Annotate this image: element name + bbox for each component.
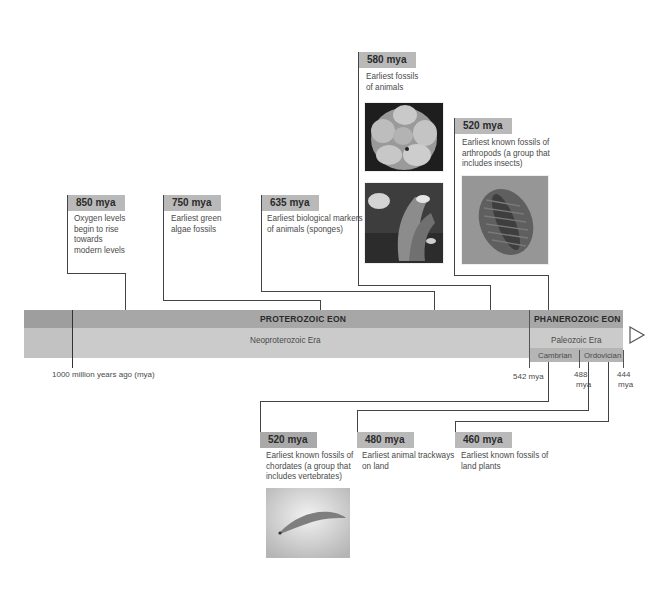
connector-480-drop	[357, 410, 358, 432]
connector-750-h	[163, 300, 321, 301]
connector-520c-v	[548, 362, 549, 402]
tick-444-mya	[623, 350, 624, 368]
connector-580	[358, 52, 359, 286]
event-description: Earliest biological markersof animals (s…	[267, 214, 363, 235]
tick-label-488: 488	[574, 370, 587, 379]
tick-label-444-unit: mya	[618, 380, 633, 389]
event-description: Earliest fossilsof animals	[366, 72, 418, 93]
event-date: 520 mya	[260, 432, 317, 448]
connector-520a-v	[548, 275, 549, 310]
tick-label-444: 444	[617, 370, 630, 379]
connector-850-h	[67, 273, 126, 274]
event-description: Earliest known fossils ofchordates (a gr…	[266, 451, 353, 483]
connector-520a-h	[454, 275, 549, 276]
connector-480-v	[588, 362, 589, 411]
connector-850-v	[125, 273, 126, 310]
event-description: Oxygen levelsbegin to risetowardsmodern …	[74, 214, 125, 256]
event-description: Earliest animal trackwayson land	[362, 451, 454, 472]
event-date: 480 mya	[357, 432, 414, 448]
event-description: Earliest known fossils ofland plants	[461, 451, 548, 472]
event-description: Earliest greenalgae fossils	[171, 214, 222, 235]
cambrian-period-label: Cambrian	[538, 351, 572, 360]
tick-label-1000: 1000 million years ago (mya)	[52, 370, 155, 379]
ordovician-period-label: Ordovician	[584, 351, 621, 360]
ediacaran-organisms-image	[364, 182, 444, 264]
paleozoic-era-label: Paleozoic Era	[551, 336, 602, 345]
connector-460-h	[455, 421, 609, 422]
arrow-right-icon	[628, 325, 646, 345]
pre-1000-era-band	[24, 328, 72, 358]
connector-520a	[454, 118, 455, 276]
event-date: 580 mya	[359, 52, 416, 68]
event-description: Earliest known fossils ofarthropods (a g…	[462, 138, 550, 170]
connector-635-h	[261, 291, 435, 292]
connector-460-drop	[455, 421, 456, 432]
event-date: 460 mya	[455, 432, 512, 448]
phanerozoic-eon-label: PHANEROZOIC EON	[534, 314, 621, 324]
chordate-fossil-image	[266, 488, 350, 558]
connector-580-v	[490, 285, 491, 310]
connector-480-h	[357, 410, 589, 411]
event-date: 635 mya	[262, 195, 319, 211]
proterozoic-eon-label: PROTEROZOIC EON	[260, 314, 346, 324]
trilobite-fossil-image	[461, 175, 549, 265]
tick-542-mya	[529, 310, 530, 368]
event-date: 850 mya	[68, 195, 125, 211]
tick-label-542: 542 mya	[513, 372, 544, 381]
connector-520c-drop	[260, 401, 261, 432]
tick-488-mya	[579, 350, 580, 368]
connector-460-v	[608, 362, 609, 422]
pre-1000-eon-band	[24, 310, 72, 328]
connector-520c-h	[260, 401, 549, 402]
event-date: 520 mya	[455, 118, 512, 134]
connector-635-v	[434, 291, 435, 310]
neoproterozoic-era-label: Neoproterozoic Era	[250, 336, 321, 345]
embryo-fossil-image	[364, 102, 444, 172]
connector-750-v	[320, 300, 321, 310]
event-date: 750 mya	[164, 195, 221, 211]
connector-580-h	[358, 285, 491, 286]
tick-1000-mya	[72, 310, 73, 368]
